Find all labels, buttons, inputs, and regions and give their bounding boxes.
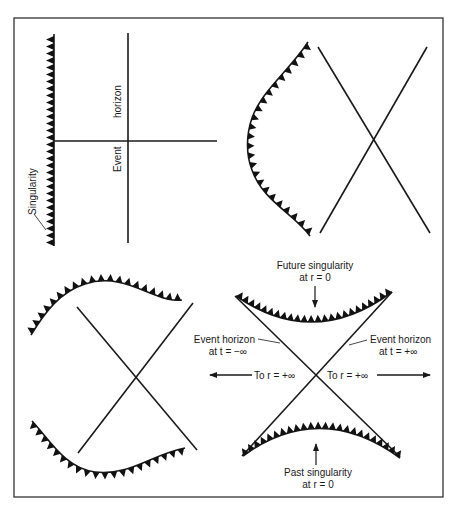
singularity-tooth xyxy=(308,422,315,429)
singularity-tooth xyxy=(336,423,343,431)
future-singularity-teeth xyxy=(27,274,181,334)
panel-bottom-left xyxy=(27,274,197,480)
spacetime-diagram-figure: horizon Event Singularity Future singula… xyxy=(0,0,456,509)
singularity-tooth xyxy=(101,472,108,479)
singularity-tooth xyxy=(46,155,54,162)
singularity-tooth xyxy=(322,422,329,429)
panel-top-left: horizon Event Singularity xyxy=(27,33,217,246)
singularity-tooth xyxy=(46,190,54,197)
singularity-tooth xyxy=(329,313,336,321)
singularity-tooth xyxy=(110,471,117,478)
singularity-tooth xyxy=(46,57,54,64)
singularity-tooth xyxy=(46,141,54,148)
singularity-tooth xyxy=(46,183,54,190)
singularity-tooth xyxy=(247,142,254,149)
past-singularity-teeth xyxy=(242,421,401,457)
singularity-tooth xyxy=(46,148,54,155)
singularity-tooth xyxy=(46,92,54,99)
curved-singularity-teeth xyxy=(247,43,312,235)
singularity-tooth xyxy=(46,64,54,71)
singularity-tooth xyxy=(315,421,322,428)
future-singularity-label: Future singularity xyxy=(277,260,354,271)
future-singularity-sublabel: at r = 0 xyxy=(299,272,331,283)
singularity-tooth xyxy=(46,106,54,113)
singularity-tooth xyxy=(46,218,54,225)
singularity-tooth xyxy=(46,204,54,211)
singularity-tooth xyxy=(46,78,54,85)
singularity-tooth xyxy=(46,71,54,78)
singularity-tooth xyxy=(301,315,308,322)
singularity-tooth xyxy=(46,225,54,232)
horizon-line-b xyxy=(320,47,427,233)
singularity-leader-line xyxy=(34,214,46,230)
singularity-tooth xyxy=(46,169,54,176)
horizon-line-a xyxy=(77,307,197,450)
to-infinity-right-label: To r = +∞ xyxy=(327,370,368,381)
event-horizon-left-label: Event horizon xyxy=(194,334,255,345)
curved-singularity xyxy=(248,42,311,236)
singularity-tooth xyxy=(308,315,315,322)
horizon-line-b xyxy=(78,303,193,453)
singularity-tooth xyxy=(46,120,54,127)
singularity-tooth xyxy=(46,99,54,106)
singularity-tooth xyxy=(46,134,54,141)
singularity-tooth xyxy=(46,85,54,92)
singularity-tooth xyxy=(46,211,54,218)
singularity-tooth xyxy=(287,313,294,321)
singularity-tooth xyxy=(322,314,329,321)
singularity-tooth xyxy=(329,422,336,429)
singularity-tooth xyxy=(98,274,105,281)
singularity-tooth xyxy=(46,197,54,204)
event-horizon-right-sublabel: at t = +∞ xyxy=(379,346,417,357)
singularity-tooth xyxy=(46,162,54,169)
panel-bottom-right: Future singularity at r = 0 Past singula… xyxy=(194,260,431,490)
future-singularity-wave xyxy=(31,281,182,335)
singularity-tooth xyxy=(93,472,100,479)
event-horizon-right-label: Event horizon xyxy=(370,334,431,345)
singularity-tooth xyxy=(301,423,308,430)
singularity-tooth xyxy=(46,36,54,43)
horizon-label: horizon xyxy=(112,85,123,118)
event-horizon-left-sublabel: at t = −∞ xyxy=(209,346,247,357)
singularity-tooth xyxy=(46,43,54,50)
singularity-teeth xyxy=(46,36,54,246)
singularity-label: Singularity xyxy=(27,168,38,215)
figure-frame xyxy=(14,18,443,497)
singularity-tooth xyxy=(46,176,54,183)
event-label: Event xyxy=(112,146,123,172)
past-singularity-sublabel: at r = 0 xyxy=(302,479,334,490)
singularity-tooth xyxy=(107,274,114,281)
singularity-tooth xyxy=(294,314,301,321)
singularity-tooth xyxy=(315,315,322,322)
singularity-tooth xyxy=(174,293,181,300)
past-singularity-wave xyxy=(32,421,185,473)
singularity-tooth xyxy=(46,127,54,134)
past-singularity-label: Past singularity xyxy=(284,467,352,478)
to-infinity-left-label: To r = +∞ xyxy=(254,370,295,381)
panel-top-right xyxy=(247,42,430,236)
singularity-tooth xyxy=(248,152,255,159)
event-horizon-left-leader xyxy=(258,339,280,343)
singularity-tooth xyxy=(248,133,255,140)
singularity-tooth xyxy=(46,50,54,57)
singularity-tooth xyxy=(46,232,54,239)
singularity-tooth xyxy=(46,113,54,120)
past-singularity-teeth xyxy=(30,422,184,480)
event-horizon-right-leader xyxy=(349,340,367,345)
singularity-tooth xyxy=(46,239,54,246)
